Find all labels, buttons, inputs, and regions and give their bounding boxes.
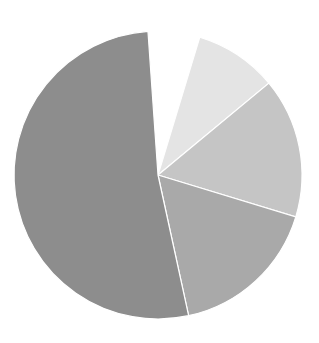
pie-chart (0, 0, 319, 343)
pie-chart-svg (0, 0, 319, 343)
